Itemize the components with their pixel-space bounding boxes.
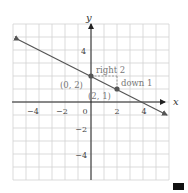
- coordinate-plane: x y −4 −2 0 2 4 4 −2 −4 right 2 down 1 (…: [0, 0, 188, 193]
- tick-x-4: 4: [141, 107, 146, 116]
- point-0-2: [88, 73, 93, 78]
- label-point-2-1: (2, 1): [88, 91, 111, 101]
- tick-x-2: 2: [114, 107, 119, 116]
- y-axis-label: y: [85, 12, 92, 23]
- label-point-0-2: (0, 2): [60, 80, 83, 90]
- tick-y-neg2: −2: [75, 125, 87, 134]
- label-down-1: down 1: [121, 78, 152, 88]
- point-2-1: [114, 86, 119, 91]
- x-axis-label: x: [173, 96, 179, 107]
- tick-x-neg4: −4: [27, 107, 39, 116]
- label-right-2: right 2: [96, 65, 125, 75]
- tick-y-neg4: −4: [75, 151, 87, 160]
- corner-mark: [173, 183, 184, 190]
- tick-y-4: 4: [81, 47, 86, 56]
- tick-x-0: 0: [82, 107, 87, 116]
- tick-x-neg2: −2: [56, 107, 68, 116]
